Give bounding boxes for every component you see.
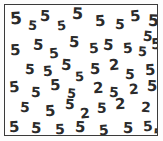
search-distractor-glyph: 5: [102, 38, 114, 54]
search-distractor-glyph: 5: [145, 63, 156, 79]
search-distractor-glyph: 5: [31, 85, 41, 99]
search-target-glyph[interactable]: 2: [108, 58, 119, 74]
search-distractor-glyph: 5: [97, 101, 107, 115]
search-distractor-glyph: 5: [95, 14, 106, 30]
search-distractor-glyph: 5: [151, 37, 158, 52]
search-distractor-glyph: 5: [56, 19, 66, 33]
search-target-glyph[interactable]: 2: [141, 100, 152, 115]
search-target-glyph[interactable]: 2: [115, 97, 126, 113]
search-distractor-glyph: 5: [123, 41, 134, 56]
search-distractor-glyph: 5: [152, 127, 158, 136]
search-distractor-glyph: 5: [75, 120, 86, 136]
search-distractor-glyph: 5: [48, 46, 59, 61]
search-field[interactable]: 5555555555555555555555552555555252555525…: [4, 4, 158, 136]
search-distractor-glyph: 5: [9, 10, 22, 28]
search-distractor-glyph: 5: [25, 62, 35, 76]
search-distractor-glyph: 5: [60, 58, 72, 74]
search-distractor-glyph: 5: [90, 62, 101, 77]
search-distractor-glyph: 5: [115, 17, 126, 32]
search-distractor-glyph: 5: [99, 123, 110, 136]
search-distractor-glyph: 5: [69, 35, 80, 51]
search-distractor-glyph: 5: [55, 122, 65, 136]
search-distractor-glyph: 5: [147, 79, 158, 94]
search-target-glyph[interactable]: 2: [93, 81, 104, 97]
search-distractor-glyph: 5: [72, 6, 84, 23]
search-distractor-glyph: 5: [27, 19, 37, 33]
search-distractor-glyph: 5: [10, 43, 21, 58]
search-distractor-glyph: 5: [20, 100, 31, 115]
search-distractor-glyph: 5: [32, 38, 43, 54]
search-distractor-glyph: 5: [40, 9, 51, 24]
search-distractor-glyph: 5: [129, 9, 141, 25]
search-distractor-glyph: 5: [75, 70, 85, 83]
search-distractor-glyph: 5: [148, 13, 158, 29]
search-distractor-glyph: 5: [123, 121, 134, 136]
search-distractor-glyph: 5: [65, 97, 75, 111]
search-target-glyph[interactable]: 2: [129, 82, 140, 97]
search-distractor-glyph: 5: [138, 45, 148, 58]
search-distractor-glyph: 5: [30, 121, 41, 136]
search-distractor-glyph: 5: [143, 119, 153, 133]
search-distractor-glyph: 5: [125, 67, 136, 82]
search-distractor-glyph: 5: [89, 41, 99, 55]
search-distractor-glyph: 5: [45, 104, 56, 120]
search-distractor-glyph: 5: [8, 80, 20, 96]
visual-search-stimulus-card: 5555555555555555555555552555555252555525…: [0, 0, 163, 141]
search-distractor-glyph: 5: [9, 120, 20, 136]
search-distractor-glyph: 5: [50, 78, 61, 93]
